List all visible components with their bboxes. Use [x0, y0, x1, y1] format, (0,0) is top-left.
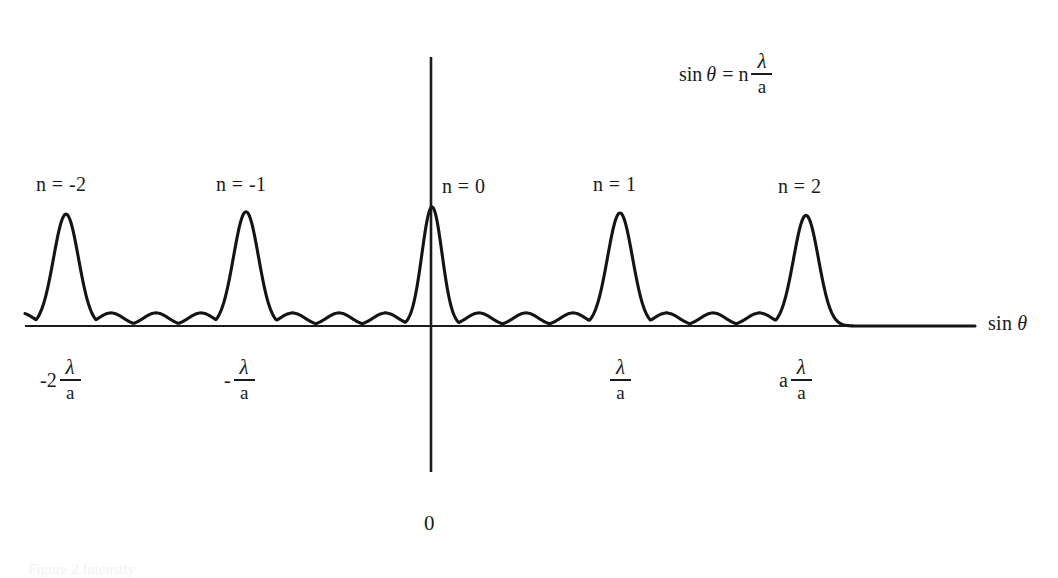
- x-axis-label-sin: sin: [988, 312, 1012, 334]
- equation-a: a: [754, 75, 770, 96]
- peak-label-n-minus-2: n = -2: [36, 174, 86, 194]
- x-axis-label-theta: θ: [1012, 312, 1027, 334]
- tick-0-numerator: λ: [62, 357, 79, 379]
- tick-2-fraction: λ a: [610, 357, 631, 402]
- tick-1-denominator: a: [236, 381, 252, 402]
- tick-3-lead: a: [779, 370, 791, 390]
- origin-label: 0: [424, 513, 435, 534]
- equation-fraction: λ a: [751, 51, 772, 96]
- tick-3-denominator: a: [793, 381, 809, 402]
- peak-label-n-minus-1: n = -1: [216, 174, 266, 194]
- tick-label-minus-2-lambda-over-a: -2 λ a: [40, 358, 81, 403]
- tick-2-denominator: a: [612, 381, 628, 402]
- tick-0-fraction: λ a: [60, 357, 81, 402]
- equation-n: n: [738, 64, 751, 84]
- peak-label-n-1: n = 1: [593, 174, 636, 194]
- tick-1-fraction: λ a: [234, 357, 255, 402]
- tick-label-lambda-over-a: λ a: [607, 358, 631, 403]
- tick-label-a-lambda-over-a: a λ a: [779, 358, 812, 403]
- peak-label-n-2: n = 2: [778, 176, 821, 196]
- tick-1-lead: -: [224, 370, 234, 390]
- tick-2-numerator: λ: [612, 357, 629, 379]
- equation-sin: sin: [679, 64, 705, 84]
- tick-3-numerator: λ: [793, 357, 810, 379]
- peak-label-n-0: n = 0: [442, 176, 485, 196]
- tick-3-fraction: λ a: [791, 357, 812, 402]
- axes-group: [25, 57, 975, 472]
- equation-equals: =: [717, 64, 738, 84]
- intensity-curve-path: [25, 207, 975, 326]
- tick-1-numerator: λ: [236, 357, 253, 379]
- equation-theta: θ: [705, 64, 717, 84]
- caption-remnant: Figure 2 Intensity: [28, 561, 135, 578]
- tick-label-minus-lambda-over-a: - λ a: [224, 358, 255, 403]
- tick-0-lead: -2: [40, 370, 60, 390]
- x-axis-label: sinθ: [988, 313, 1027, 333]
- tick-0-denominator: a: [62, 381, 78, 402]
- equation-lambda: λ: [753, 51, 770, 73]
- grating-equation: sin θ = n λ a: [679, 52, 772, 97]
